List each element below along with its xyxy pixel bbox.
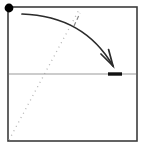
pivot-dot xyxy=(5,4,14,13)
figure-canvas xyxy=(0,0,147,148)
